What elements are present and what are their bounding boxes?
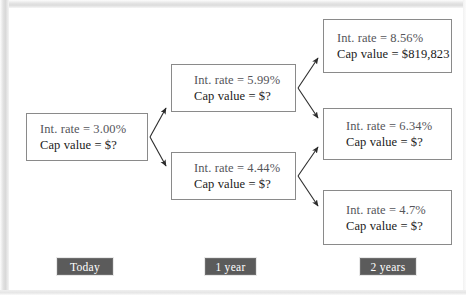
frame-bottom-edge xyxy=(0,290,466,295)
node-root-rate: Int. rate = 3.00% xyxy=(40,121,147,137)
diagram-canvas: Int. rate = 3.00% Cap value = $? Int. ra… xyxy=(0,0,466,295)
frame-top-edge xyxy=(0,0,466,8)
node-mid-2-value: Cap value = $? xyxy=(346,134,423,150)
node-root-value: Cap value = $? xyxy=(40,137,147,153)
node-up-1-rate: Int. rate = 5.99% xyxy=(194,72,280,88)
node-up-up-2[interactable]: Int. rate = 8.56% Cap value = $819,823 xyxy=(323,19,452,73)
node-up-1-value: Cap value = $? xyxy=(194,88,271,104)
timeline-label-year-2: 2 years xyxy=(360,258,416,275)
node-down-down-2-value: Cap value = $? xyxy=(346,218,423,234)
node-up-up-2-value: Cap value = $819,823 xyxy=(337,46,451,62)
node-up-up-2-rate: Int. rate = 8.56% xyxy=(337,30,451,46)
node-down-down-2-rate: Int. rate = 4.7% xyxy=(346,202,426,218)
node-up-1[interactable]: Int. rate = 5.99% Cap value = $? xyxy=(171,64,296,112)
node-down-1[interactable]: Int. rate = 4.44% Cap value = $? xyxy=(171,152,296,200)
frame-left-edge xyxy=(0,0,9,295)
node-down-1-rate: Int. rate = 4.44% xyxy=(194,160,280,176)
node-mid-2[interactable]: Int. rate = 6.34% Cap value = $? xyxy=(323,108,452,160)
node-down-1-value: Cap value = $? xyxy=(194,176,271,192)
node-down-down-2[interactable]: Int. rate = 4.7% Cap value = $? xyxy=(323,190,452,245)
timeline-label-year-1: 1 year xyxy=(205,258,256,275)
timeline-label-today: Today xyxy=(57,258,113,275)
node-root[interactable]: Int. rate = 3.00% Cap value = $? xyxy=(26,113,148,161)
node-mid-2-rate: Int. rate = 6.34% xyxy=(346,118,432,134)
